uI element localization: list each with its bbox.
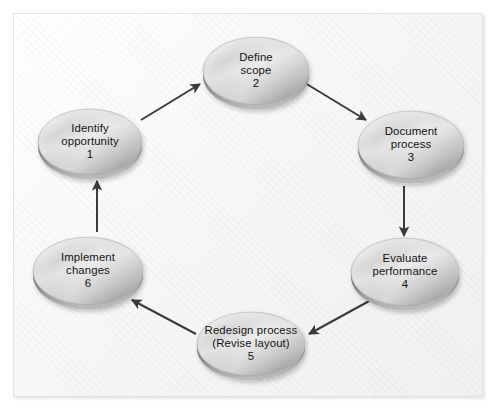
arrow-layer [97, 83, 404, 334]
node-identify-opportunity[interactable] [38, 109, 142, 180]
node-sheen [34, 238, 142, 304]
arrow-1-to-2 [141, 84, 200, 120]
node-sheen [359, 112, 463, 178]
node-define-scope[interactable] [203, 37, 309, 110]
node-sheen [198, 313, 304, 375]
node-redesign-process[interactable] [197, 312, 305, 381]
arrow-5-to-6 [132, 300, 196, 334]
node-document-process[interactable] [358, 111, 464, 184]
cycle-diagram [0, 0, 497, 412]
arrow-4-to-5 [309, 300, 371, 334]
node-implement-changes[interactable] [33, 237, 143, 310]
node-sheen [39, 110, 141, 174]
node-evaluate-performance[interactable] [351, 238, 459, 311]
diagram-canvas: Identifyopportunity1Definescope2Document… [0, 0, 497, 412]
node-sheen [352, 239, 458, 305]
arrow-2-to-3 [305, 83, 366, 120]
node-sheen [204, 38, 308, 104]
